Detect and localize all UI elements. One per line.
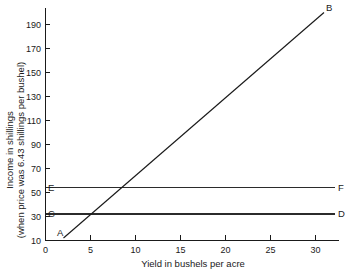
- y-tick-label-150: 150: [26, 68, 41, 78]
- point-label-b: B: [326, 2, 332, 13]
- y-axis-title-line2: (when price was 6.43 shillings per bushe…: [15, 62, 26, 238]
- income-line-ab: [64, 13, 325, 239]
- x-tick-label-0: 0: [43, 245, 48, 255]
- point-label-d: D: [338, 208, 345, 219]
- y-axis-tick-labels: 10 30 50 70 90 110 130 150 170 190: [26, 20, 41, 246]
- x-axis-tick-labels: 0 5 10 15 20 25 30: [43, 245, 321, 255]
- x-axis-ticks: [46, 235, 316, 241]
- x-tick-label-25: 25: [265, 245, 275, 255]
- y-tick-label-110: 110: [27, 116, 41, 126]
- income-yield-line-chart: Income in shillings (when price was 6.43…: [0, 0, 354, 273]
- point-label-c: C: [48, 208, 55, 219]
- y-tick-label-50: 50: [31, 188, 41, 198]
- x-tick-label-20: 20: [220, 245, 230, 255]
- x-tick-label-5: 5: [88, 245, 93, 255]
- point-label-f: F: [338, 182, 344, 193]
- y-tick-label-90: 90: [31, 140, 41, 150]
- chart-container: Income in shillings (when price was 6.43…: [0, 0, 354, 273]
- y-tick-label-190: 190: [26, 20, 41, 30]
- point-label-e: E: [48, 182, 54, 193]
- x-tick-label-15: 15: [175, 245, 185, 255]
- y-tick-label-70: 70: [31, 164, 41, 174]
- y-tick-label-130: 130: [26, 92, 41, 102]
- y-tick-label-30: 30: [31, 212, 41, 222]
- y-tick-label-170: 170: [26, 44, 41, 54]
- x-tick-label-30: 30: [310, 245, 320, 255]
- point-label-a: A: [57, 227, 64, 238]
- x-tick-label-10: 10: [130, 245, 140, 255]
- y-axis-title-line1: Income in shillings: [4, 111, 15, 189]
- y-tick-label-10: 10: [31, 236, 41, 246]
- x-axis-title: Yield in bushels per acre: [141, 258, 245, 269]
